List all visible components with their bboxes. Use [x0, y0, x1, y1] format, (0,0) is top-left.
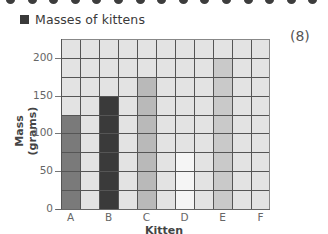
binding-dot — [287, 0, 296, 4]
binding-dot — [114, 0, 123, 4]
bar-A — [61, 116, 80, 210]
grid-line-vertical — [251, 40, 252, 210]
chart-title: Masses of kittens — [35, 12, 145, 27]
x-tick-label: C — [137, 211, 156, 223]
grid-line-vertical — [137, 40, 138, 210]
binding-dot — [265, 0, 274, 4]
binding-dot — [92, 0, 101, 4]
y-tick-label: 150 — [27, 89, 53, 101]
x-tick-label: D — [175, 211, 194, 223]
chart-title-row: Masses of kittens — [20, 12, 145, 27]
grid-line-vertical — [175, 40, 176, 210]
grid-line-horizontal — [61, 190, 269, 191]
grid-line-horizontal — [61, 152, 269, 153]
x-tick-label: E — [213, 211, 232, 223]
binding-dot — [222, 0, 231, 4]
x-tick-label: A — [61, 211, 80, 223]
title-bullet-icon — [20, 15, 29, 24]
binding-dot — [136, 0, 145, 4]
grid-line-vertical — [99, 40, 100, 210]
grid-line-vertical — [213, 40, 214, 210]
y-tick-label: 100 — [27, 126, 53, 138]
x-tick-label: B — [99, 211, 118, 223]
y-tick-label: 0 — [27, 202, 53, 214]
x-axis-line — [56, 209, 270, 210]
grid-line-vertical — [232, 40, 233, 210]
x-tick-label: F — [251, 211, 270, 223]
binding-dot — [49, 0, 58, 4]
y-axis-line — [61, 39, 62, 210]
grid-line-vertical — [156, 40, 157, 210]
grid-line-horizontal — [61, 133, 269, 134]
grid-line-horizontal — [61, 171, 269, 172]
marks-label: (8) — [290, 28, 310, 44]
grid-line-horizontal — [61, 96, 269, 97]
spiral-binding — [0, 0, 328, 4]
binding-dot — [200, 0, 209, 4]
grid-line-horizontal — [61, 115, 269, 116]
bar-D — [175, 153, 194, 210]
x-axis-label: Kitten — [134, 224, 194, 234]
binding-dot — [6, 0, 15, 4]
grid-line-vertical — [194, 40, 195, 210]
binding-dot — [179, 0, 188, 4]
grid-line-vertical — [80, 40, 81, 210]
grid-line-horizontal — [61, 77, 269, 78]
y-tick-label: 50 — [27, 164, 53, 176]
plot-area — [61, 39, 270, 210]
binding-dot — [157, 0, 166, 4]
grid-line-horizontal — [61, 58, 269, 59]
binding-dot — [71, 0, 80, 4]
binding-dot — [244, 0, 253, 4]
y-tick-label: 200 — [27, 51, 53, 63]
grid-line-vertical — [118, 40, 119, 210]
binding-dot — [28, 0, 37, 4]
binding-dot — [308, 0, 317, 4]
